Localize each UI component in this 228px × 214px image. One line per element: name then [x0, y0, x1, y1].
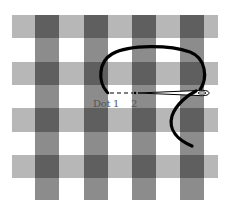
- dot-2-marker: [134, 92, 137, 95]
- dot-2-label: 2: [131, 99, 137, 109]
- dot-1-marker: [107, 92, 110, 95]
- dot-1-label: Dot 1: [93, 99, 119, 109]
- gingham-diagram: Dot 1 2: [0, 0, 228, 214]
- band-intersections: [35, 15, 204, 178]
